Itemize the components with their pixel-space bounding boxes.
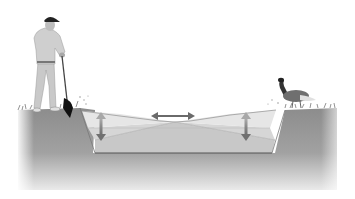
goose-figure <box>278 78 316 108</box>
splash-dots <box>79 95 279 104</box>
person-figure <box>33 17 65 112</box>
pond-diagram <box>0 0 355 199</box>
garden-tool <box>62 56 73 118</box>
